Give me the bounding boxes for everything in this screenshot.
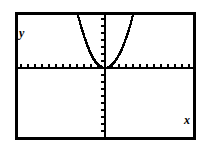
x-axis-label: x	[184, 114, 190, 126]
curve-point	[132, 14, 134, 16]
plot-canvas	[0, 0, 205, 150]
y-axis-label: y	[19, 27, 24, 39]
graph-figure: y x	[0, 0, 205, 150]
